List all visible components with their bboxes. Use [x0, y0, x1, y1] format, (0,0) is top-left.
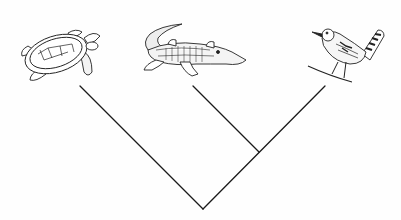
- branch-alligator: [193, 86, 259, 152]
- cladogram-canvas: [0, 0, 401, 220]
- tree-branches: [80, 86, 325, 209]
- branch-turtle: [80, 86, 203, 209]
- alligator-icon: [144, 24, 246, 76]
- turtle-icon: [20, 27, 100, 81]
- cladogram-diagram: [0, 0, 401, 220]
- branch-bird: [203, 86, 325, 209]
- bird-icon: [308, 29, 384, 82]
